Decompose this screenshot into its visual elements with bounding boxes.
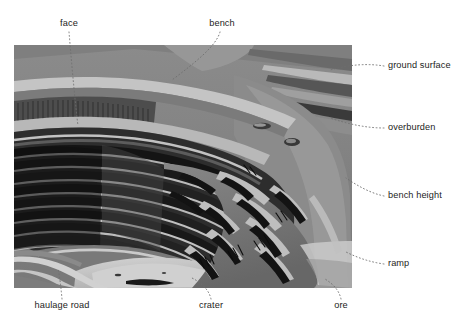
label-crater: crater xyxy=(199,301,223,310)
open-pit-mine-photo xyxy=(14,45,352,288)
label-ground-surface: ground surface xyxy=(388,61,451,70)
label-ramp: ramp xyxy=(388,259,409,268)
mine-diagram-figure: face bench ground surface overburden ben… xyxy=(0,0,470,333)
label-haulage-road: haulage road xyxy=(35,301,90,310)
photo-artwork xyxy=(14,45,352,288)
label-overburden: overburden xyxy=(388,123,435,132)
label-bench-height: bench height xyxy=(388,191,442,200)
label-bench: bench xyxy=(209,19,235,28)
label-face: face xyxy=(60,19,78,28)
label-ore: ore xyxy=(334,301,348,310)
